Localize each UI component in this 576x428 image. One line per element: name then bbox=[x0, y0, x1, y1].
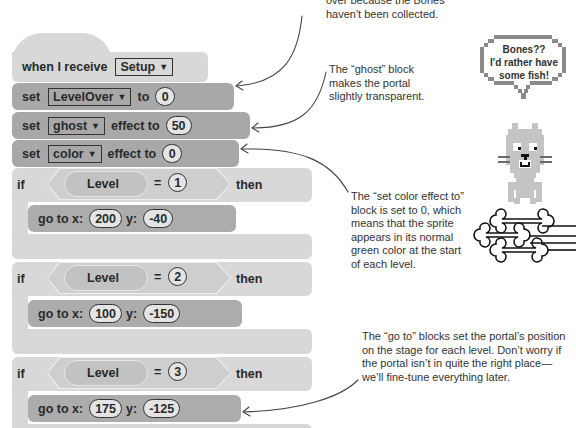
to-label: to bbox=[137, 90, 149, 104]
if-bottom-arm bbox=[12, 329, 312, 354]
speech-bubble-text: Bones?? I'd rather have some fish! bbox=[486, 43, 562, 82]
if-label: if bbox=[17, 178, 25, 192]
when-i-receive-block[interactable]: when I receive Setup ▼ bbox=[12, 52, 208, 82]
hat-label: when I receive bbox=[22, 60, 107, 74]
effect-to-label: effect to bbox=[111, 119, 160, 133]
go-to-label: go to x: bbox=[38, 307, 83, 321]
x-input[interactable]: 175 bbox=[89, 399, 122, 418]
y-label: y: bbox=[126, 402, 137, 416]
if-spine bbox=[12, 292, 28, 334]
message-dropdown[interactable]: Setup ▼ bbox=[115, 58, 173, 76]
dropdown-arrow-icon: ▼ bbox=[118, 92, 127, 102]
then-label: then bbox=[236, 367, 262, 381]
bones-pile-icon bbox=[474, 209, 576, 262]
go-to-label: go to x: bbox=[38, 212, 83, 226]
dropdown-arrow-icon: ▼ bbox=[159, 62, 168, 72]
x-input[interactable]: 100 bbox=[89, 304, 122, 323]
go-to-label: go to x: bbox=[38, 402, 83, 416]
value-input[interactable]: 0 bbox=[162, 144, 182, 163]
equals-operator: = 2 bbox=[154, 267, 191, 286]
equals-operator: = 1 bbox=[154, 173, 191, 192]
effect-to-label: effect to bbox=[108, 147, 157, 161]
value-input[interactable]: 50 bbox=[166, 116, 192, 135]
then-label: then bbox=[236, 178, 262, 192]
if-label: if bbox=[17, 272, 25, 286]
annotation-color: The “set color effect to” block is set t… bbox=[351, 190, 464, 271]
compare-value-input[interactable]: 2 bbox=[168, 267, 187, 286]
y-label: y: bbox=[126, 307, 137, 321]
go-to-xy-block[interactable]: go to x: 175 y: -125 bbox=[28, 395, 241, 422]
then-label: then bbox=[236, 272, 262, 286]
y-label: y: bbox=[126, 212, 137, 226]
if-bottom-arm bbox=[12, 424, 312, 428]
dropdown-arrow-icon: ▼ bbox=[91, 121, 100, 131]
x-input[interactable]: 200 bbox=[89, 209, 122, 228]
set-label: set bbox=[22, 119, 40, 133]
variable-dropdown[interactable]: LevelOver ▼ bbox=[48, 88, 131, 106]
compare-value-input[interactable]: 1 bbox=[168, 173, 187, 192]
annotation-ghost: The “ghost” block makes the portal sligh… bbox=[329, 63, 424, 104]
set-color-effect-block[interactable]: set color ▼ effect to 0 bbox=[12, 140, 239, 167]
cat-sprite-icon bbox=[498, 123, 552, 204]
equals-operator: = 3 bbox=[154, 362, 191, 381]
annotation-top: over because the Bones haven't been coll… bbox=[326, 0, 445, 21]
y-input[interactable]: -150 bbox=[143, 304, 180, 323]
set-variable-block[interactable]: set LevelOver ▼ to 0 bbox=[12, 83, 234, 110]
if-spine bbox=[12, 198, 28, 238]
go-to-xy-block[interactable]: go to x: 200 y: -40 bbox=[28, 205, 236, 232]
set-label: set bbox=[22, 90, 40, 104]
effect-dropdown[interactable]: ghost ▼ bbox=[48, 117, 105, 135]
if-label: if bbox=[17, 367, 25, 381]
compare-value-input[interactable]: 3 bbox=[168, 362, 187, 381]
y-input[interactable]: -40 bbox=[143, 209, 173, 228]
go-to-xy-block[interactable]: go to x: 100 y: -150 bbox=[28, 300, 242, 327]
effect-dropdown[interactable]: color ▼ bbox=[48, 145, 101, 163]
level-variable-reporter[interactable]: Level bbox=[64, 360, 148, 386]
dropdown-arrow-icon: ▼ bbox=[88, 149, 97, 159]
set-label: set bbox=[22, 147, 40, 161]
level-variable-reporter[interactable]: Level bbox=[64, 171, 148, 197]
value-input[interactable]: 0 bbox=[155, 87, 175, 106]
y-input[interactable]: -125 bbox=[143, 399, 180, 418]
if-bottom-arm bbox=[12, 234, 312, 259]
set-ghost-effect-block[interactable]: set ghost ▼ effect to 50 bbox=[12, 112, 250, 139]
level-variable-reporter[interactable]: Level bbox=[64, 265, 148, 291]
annotation-goto: The “go to” blocks set the portal’s posi… bbox=[362, 330, 565, 384]
if-spine bbox=[12, 387, 28, 428]
